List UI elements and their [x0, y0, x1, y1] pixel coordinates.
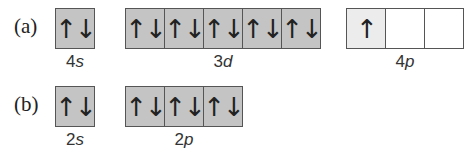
orbital-group-4s: ↑↓	[55, 8, 95, 49]
orbital-box: ↑↓	[281, 8, 321, 49]
orbital-box: ↑↓	[164, 8, 204, 49]
orbital-box: ↑↓	[125, 8, 165, 49]
row-label-a: (a)	[14, 14, 37, 39]
subshell-label-2s: 2s	[55, 130, 95, 150]
subshell-label-3d: 3d	[125, 52, 321, 72]
subshell-label-4s: 4s	[55, 52, 95, 72]
orbital-box: ↑↓	[203, 8, 243, 49]
orbital-box: ↑↓	[55, 86, 95, 127]
orbital-box: ↑↓	[55, 8, 95, 49]
row-label-b: (b)	[14, 92, 39, 117]
orbital-box: ↑	[346, 8, 386, 49]
orbital-box: ↑↓	[242, 8, 282, 49]
orbital-group-2s: ↑↓	[55, 86, 95, 127]
subshell-label-2p: 2p	[125, 130, 243, 150]
orbital-box: ↑↓	[125, 86, 165, 127]
orbital-group-2p: ↑↓ ↑↓ ↑↓	[125, 86, 243, 127]
orbital-group-3d: ↑↓ ↑↓ ↑↓ ↑↓ ↑↓	[125, 8, 321, 49]
orbital-box: ↑↓	[203, 86, 243, 127]
subshell-label-4p: 4p	[346, 52, 464, 72]
orbital-box: ↑↓	[164, 86, 204, 127]
orbital-box	[385, 8, 425, 49]
orbital-box	[424, 8, 464, 49]
orbital-group-4p: ↑	[346, 8, 464, 49]
